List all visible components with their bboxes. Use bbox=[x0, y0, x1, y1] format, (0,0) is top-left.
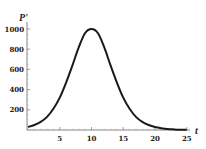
x-tick-label: 5 bbox=[57, 134, 62, 143]
y-axis-label: P' bbox=[19, 12, 28, 23]
chart: 2004006008001000 510152025 P' t bbox=[0, 0, 206, 149]
y-tick-label: 400 bbox=[9, 85, 24, 94]
y-tick-label: 1000 bbox=[5, 25, 25, 34]
y-tick-label: 800 bbox=[9, 45, 24, 54]
x-tick-label: 10 bbox=[87, 134, 97, 143]
data-curve bbox=[28, 29, 187, 130]
x-tick-label: 25 bbox=[182, 134, 192, 143]
x-axis-label: t bbox=[195, 125, 199, 136]
minor-ticks bbox=[27, 29, 187, 130]
y-tick-label: 600 bbox=[9, 65, 24, 74]
x-tick-label: 15 bbox=[118, 134, 128, 143]
y-tick-label: 200 bbox=[9, 105, 24, 114]
y-ticks: 2004006008001000 bbox=[5, 25, 30, 115]
x-tick-label: 20 bbox=[150, 134, 160, 143]
